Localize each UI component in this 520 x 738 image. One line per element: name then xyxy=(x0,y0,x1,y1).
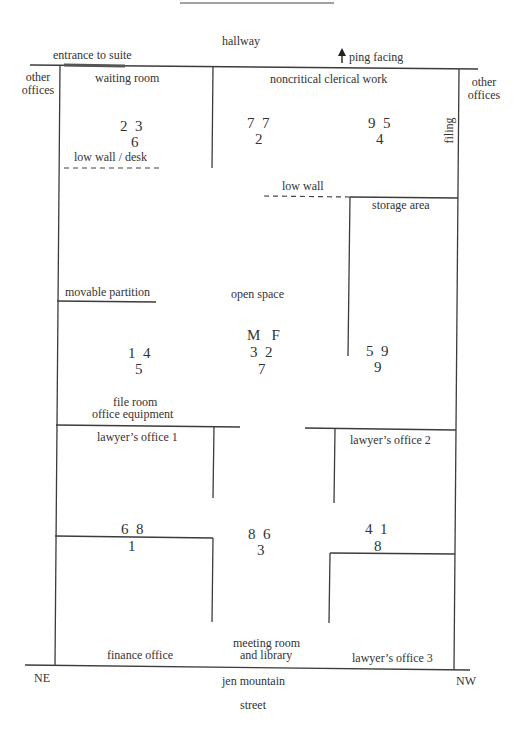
orientation-label: ping facing xyxy=(349,51,403,64)
lawyers-office-1-label: lawyer’s office 1 xyxy=(97,431,178,444)
movable-partition-label: movable partition xyxy=(65,286,150,299)
clerical-counts-b-row2: 4 xyxy=(376,131,384,147)
clerical-counts-a-row2: 2 xyxy=(255,131,263,147)
lawyers-office-1-top-wall xyxy=(56,425,240,427)
open-space-counts-row2: 7 xyxy=(258,361,266,377)
open-space-label: open space xyxy=(231,288,284,301)
bottom-outer-wall xyxy=(25,665,470,670)
other-offices-right-label: other offices xyxy=(464,76,504,102)
waiting-room-counts-row2: 6 xyxy=(131,134,139,150)
library-label: and library xyxy=(240,649,292,662)
left-outer-wall xyxy=(55,65,60,665)
open-space-counts-row1: 3 2 xyxy=(250,344,273,360)
clerical-counts-b-row1: 9 5 xyxy=(368,115,391,131)
file-room-counts-row2: 5 xyxy=(135,361,143,377)
waiting-room-label: waiting room xyxy=(95,72,159,85)
movable-partition-wall xyxy=(57,301,156,302)
right-outer-wall xyxy=(454,69,459,670)
right-area-counts-row1: 5 9 xyxy=(366,343,389,359)
lawyers-office-3-left-wall xyxy=(329,553,330,623)
lawyers-office-2-left-wall xyxy=(334,429,335,503)
storage-area-label: storage area xyxy=(372,199,430,212)
waiting-room-divider xyxy=(212,66,213,168)
file-room-counts-row1: 1 4 xyxy=(128,345,151,361)
nw-corner-label: NW xyxy=(456,675,476,688)
lawyers-office-3-counts-row2: 8 xyxy=(374,538,382,554)
meeting-counts-row2: 3 xyxy=(257,542,265,558)
finance-counts-row1: 6 8 xyxy=(121,521,144,537)
arrow-up-icon xyxy=(338,48,346,63)
low-wall-line xyxy=(264,196,350,197)
hallway-label: hallway xyxy=(222,35,260,48)
meeting-counts-row1: 8 6 xyxy=(248,526,271,542)
filing-label: filing xyxy=(443,116,456,146)
entrance-door xyxy=(64,65,125,66)
open-space-counts-header: M F xyxy=(247,327,280,343)
lawyers-office-2-top-wall xyxy=(305,428,456,430)
low-wall-label: low wall xyxy=(282,180,324,193)
lawyers-office-3-counts-row1: 4 1 xyxy=(365,521,388,537)
lawyers-office-2-label: lawyer’s office 2 xyxy=(350,434,431,447)
finance-office-right-wall xyxy=(212,538,213,622)
right-area-counts-row2: 9 xyxy=(374,359,382,375)
lawyers-office-3-label: lawyer’s office 3 xyxy=(352,652,433,665)
other-offices-left-label: other offices xyxy=(18,71,58,97)
finance-counts-row2: 1 xyxy=(128,538,136,554)
office-equipment-label: office equipment xyxy=(92,408,173,421)
street-label: street xyxy=(240,699,266,712)
lawyers-office-1-right-wall xyxy=(213,426,214,498)
lawyers-office-3-top-wall xyxy=(330,553,455,554)
ne-corner-label: NE xyxy=(34,672,50,685)
clerical-work-label: noncritical clerical work xyxy=(270,73,387,86)
waiting-room-counts-row1: 2 3 xyxy=(120,118,143,134)
entrance-label: entrance to suite xyxy=(53,49,132,62)
low-wall-desk-label: low wall / desk xyxy=(74,151,147,164)
clerical-counts-a-row1: 7 7 xyxy=(247,115,270,131)
finance-office-label: finance office xyxy=(107,649,173,662)
street-name-label: jen mountain xyxy=(222,675,285,688)
storage-left-wall xyxy=(348,197,350,356)
